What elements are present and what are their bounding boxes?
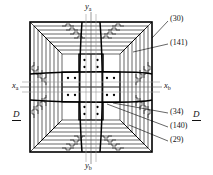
axis-label-x-b: xb	[164, 81, 171, 90]
leader-lines	[107, 21, 168, 141]
center-axis-lines	[20, 12, 162, 164]
ref-numeral-140: (140)	[170, 122, 187, 130]
drawing-body	[20, 12, 168, 164]
section-marker-left: D	[12, 110, 21, 121]
ref-numeral-30: (30)	[170, 15, 183, 23]
ref-numeral-29: (29)	[170, 136, 183, 144]
ref-numeral-34: (34)	[170, 108, 183, 116]
ref-numeral-141: (141)	[170, 39, 187, 47]
technical-drawing-svg	[0, 0, 213, 175]
axis-label-y-b: yb	[85, 161, 92, 170]
axis-label-y-a: ya	[85, 2, 91, 11]
axis-label-x-a: xa	[12, 81, 18, 90]
figure-canvas: ya yb xa xb D D (30) (141) (34) (140) (2…	[0, 0, 213, 175]
section-marker-right: D	[192, 110, 201, 121]
